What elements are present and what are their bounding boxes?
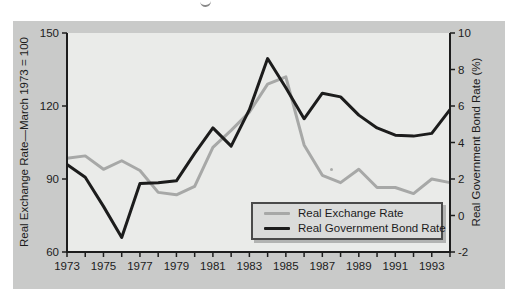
figure-page: 1973197519771979198119831985198719891991…	[0, 0, 514, 301]
left-axis-tick-label: 120	[40, 100, 59, 112]
x-axis-tick-label: 1985	[273, 260, 299, 272]
legend-item-bond-rate: Real Government Bond Rate	[264, 223, 441, 235]
x-axis-tick-label: 1977	[127, 260, 153, 272]
left-axis-title: Real Exchange Rate—March 1973 = 100	[18, 37, 30, 247]
x-axis-tick-label: 1979	[164, 260, 190, 272]
right-axis-tick-label: 10	[458, 27, 471, 39]
x-axis-tick-label: 1983	[237, 260, 263, 272]
legend: Real Exchange Rate Real Government Bond …	[251, 202, 443, 240]
exchange-rate-line-swatch	[264, 212, 290, 215]
right-axis-tick-label: 2	[458, 173, 464, 185]
right-axis-tick-label: 0	[458, 210, 464, 222]
right-axis-tick-label: 4	[458, 137, 465, 149]
right-axis-tick-label: -2	[458, 246, 468, 258]
x-axis-tick-label: 1981	[200, 260, 226, 272]
left-axis-tick-label: 60	[46, 246, 59, 258]
x-axis-tick-label: 1993	[419, 260, 445, 272]
x-axis-tick-label: 1987	[310, 260, 336, 272]
right-axis-tick-label: 6	[458, 100, 464, 112]
bond-rate-line-swatch	[264, 227, 290, 230]
right-axis-title: Real Government Bond Rate (%)	[470, 57, 482, 226]
x-axis-tick-label: 1973	[54, 260, 80, 272]
chart-canvas: 1973197519771979198119831985198719891991…	[0, 0, 514, 301]
x-axis-tick-label: 1989	[346, 260, 372, 272]
legend-label-bond-rate: Real Government Bond Rate	[298, 223, 446, 235]
x-axis-tick-label: 1975	[91, 260, 117, 272]
print-speck-artifact	[330, 168, 333, 171]
x-axis-tick-label: 1991	[382, 260, 408, 272]
left-axis-tick-label: 90	[46, 173, 59, 185]
left-axis-tick-label: 150	[40, 27, 59, 39]
right-axis-tick-label: 8	[458, 64, 464, 76]
legend-item-exchange-rate: Real Exchange Rate	[264, 208, 441, 220]
legend-label-exchange-rate: Real Exchange Rate	[298, 208, 403, 220]
